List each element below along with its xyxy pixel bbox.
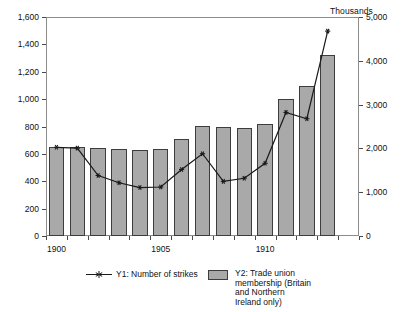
right-axis-tick bbox=[359, 61, 363, 62]
bar bbox=[237, 128, 252, 236]
right-axis-tick bbox=[359, 192, 363, 193]
left-axis-tick bbox=[42, 72, 46, 73]
x-axis-tick bbox=[276, 236, 277, 240]
bar bbox=[90, 148, 105, 236]
left-axis-tick bbox=[42, 154, 46, 155]
right-axis-tick bbox=[359, 105, 363, 106]
x-axis-tick bbox=[129, 236, 130, 240]
right-axis-tick bbox=[359, 148, 363, 149]
legend-label-strikes: Y1: Number of strikes bbox=[116, 270, 198, 280]
left-axis-tick-label: 200 bbox=[2, 204, 39, 214]
left-axis-tick bbox=[42, 44, 46, 45]
x-axis-tick bbox=[46, 236, 47, 240]
bar bbox=[49, 147, 64, 236]
right-axis-tick-label: 3,000 bbox=[366, 100, 387, 110]
bar bbox=[153, 149, 168, 236]
chart-container: Thousands 02004006008001,0001,2001,4001,… bbox=[0, 0, 416, 312]
x-axis-tick bbox=[338, 236, 339, 240]
right-axis-tick-label: 2,000 bbox=[366, 143, 387, 153]
bar bbox=[195, 126, 210, 236]
right-axis-tick bbox=[359, 17, 363, 18]
bar bbox=[216, 127, 231, 236]
bar bbox=[111, 149, 126, 236]
left-axis-tick-label: 1,200 bbox=[2, 67, 39, 77]
x-axis-tick bbox=[255, 236, 256, 240]
left-axis-tick-label: 0 bbox=[2, 231, 39, 241]
line-marker-icon bbox=[86, 270, 112, 279]
bar bbox=[70, 147, 85, 236]
bar bbox=[132, 150, 147, 236]
left-axis-tick-label: 800 bbox=[2, 122, 39, 132]
x-axis-tick bbox=[296, 236, 297, 240]
x-axis-tick-label: 1905 bbox=[151, 244, 170, 254]
x-axis-tick bbox=[88, 236, 89, 240]
bar bbox=[174, 139, 189, 236]
legend-item-membership: Y2: Trade union membership (Britain and … bbox=[208, 269, 311, 307]
left-axis-tick-label: 600 bbox=[2, 149, 39, 159]
left-axis-tick bbox=[42, 127, 46, 128]
x-axis-tick bbox=[359, 236, 360, 240]
x-axis-tick-label: 1900 bbox=[47, 244, 66, 254]
left-axis-tick-label: 1,400 bbox=[2, 39, 39, 49]
right-axis-tick-label: 4,000 bbox=[366, 56, 387, 66]
x-axis-tick bbox=[109, 236, 110, 240]
x-axis-tick bbox=[150, 236, 151, 240]
legend-label-membership: Y2: Trade union membership (Britain and … bbox=[235, 269, 311, 307]
right-axis-tick-label: 0 bbox=[366, 231, 371, 241]
bar bbox=[278, 99, 293, 236]
legend-item-strikes: Y1: Number of strikes bbox=[86, 270, 198, 280]
left-axis-tick bbox=[42, 17, 46, 18]
x-axis-tick bbox=[234, 236, 235, 240]
x-axis-tick bbox=[317, 236, 318, 240]
right-axis-tick-label: 5,000 bbox=[366, 12, 387, 22]
x-axis-tick bbox=[213, 236, 214, 240]
left-axis-tick bbox=[42, 99, 46, 100]
left-axis-tick-label: 1,600 bbox=[2, 12, 39, 22]
left-axis-tick bbox=[42, 209, 46, 210]
bar bbox=[299, 86, 314, 236]
x-axis-tick bbox=[67, 236, 68, 240]
x-axis-tick-label: 1910 bbox=[256, 244, 275, 254]
bar bbox=[257, 124, 272, 236]
bar-swatch-icon bbox=[208, 270, 228, 280]
x-axis-tick bbox=[192, 236, 193, 240]
x-axis-tick bbox=[171, 236, 172, 240]
left-axis-tick bbox=[42, 181, 46, 182]
right-axis-tick-label: 1,000 bbox=[366, 187, 387, 197]
left-axis-tick-label: 1,000 bbox=[2, 94, 39, 104]
bar bbox=[320, 55, 335, 236]
left-axis-tick-label: 400 bbox=[2, 176, 39, 186]
